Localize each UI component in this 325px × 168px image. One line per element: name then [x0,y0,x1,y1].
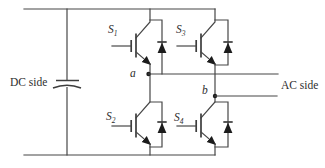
switch-label-s3: S3 [176,23,186,38]
s4-collector-lead [201,96,215,118]
dc-link-capacitor [53,9,81,155]
s1-collector-lead [136,9,150,38]
antiparallel-diode-s3 [215,20,233,65]
igbt-switch-s3 [177,9,215,96]
dc-side-label: DC side [10,76,47,88]
s2-emitter-arrow [136,132,150,144]
node-a-label: a [130,67,136,79]
s3-collector-lead [201,9,215,38]
ac-side-label: AC side [281,79,318,91]
diode-s2-triangle [158,123,167,134]
s4-emitter-arrow [201,132,215,144]
switch-label-s4: S4 [174,111,184,126]
diode-s1-triangle [158,43,167,54]
igbt-switch-s1 [112,9,150,74]
switch-label-s1: S1 [108,23,118,38]
diode-s2-branch [150,102,162,147]
antiparallel-diode-s2 [150,102,167,147]
diode-s4-triangle [224,123,233,134]
diode-s3-triangle [224,43,233,54]
s3-emitter-arrow [201,52,215,64]
switch-label-s2: S2 [106,110,116,125]
inverter-circuit-diagram: S1 S3 S2 S4 a b DC side AC side [0,0,325,168]
diode-s4-branch [215,102,228,147]
s1-emitter-arrow [136,52,150,64]
s2-collector-lead [136,74,150,118]
igbt-switch-s2 [112,74,150,155]
node-b-label: b [202,84,208,96]
antiparallel-diode-s4 [215,102,233,147]
igbt-switch-s4 [177,96,215,155]
circuit-svg: S1 S3 S2 S4 a b DC side AC side [0,0,325,168]
antiparallel-diode-s1 [150,20,167,74]
